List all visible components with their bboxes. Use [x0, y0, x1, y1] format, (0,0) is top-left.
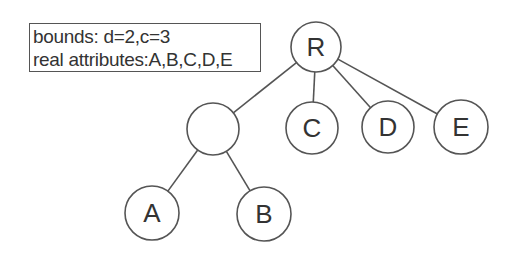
node-label: C [303, 113, 322, 143]
node-label: R [307, 32, 326, 62]
tree-node-C: C [286, 102, 338, 154]
tree-diagram: RCDEAB [0, 0, 514, 264]
tree-node-B: B [237, 187, 291, 241]
node-label: A [143, 198, 161, 228]
node-label: B [255, 199, 272, 229]
tree-node-A: A [125, 186, 179, 240]
node-label: E [452, 112, 469, 142]
edge-R-N [233, 63, 296, 113]
edge-N-A [168, 150, 198, 191]
edge-R-D [333, 66, 371, 108]
edge-R-C [313, 72, 314, 102]
tree-node-D: D [362, 101, 414, 153]
tree-node-E: E [434, 100, 488, 154]
edge-N-B [226, 151, 250, 191]
node-label: D [379, 112, 398, 142]
tree-node-R: R [291, 22, 341, 72]
tree-node-N [187, 103, 239, 155]
tree-nodes: RCDEAB [125, 22, 488, 241]
